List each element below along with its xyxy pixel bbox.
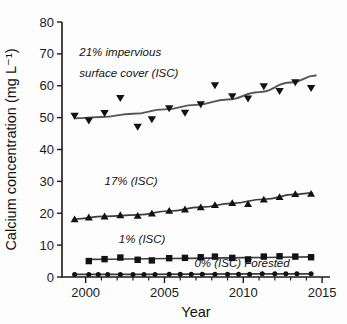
data-point-circle: [167, 272, 172, 277]
y-ticklabel: 40: [40, 142, 54, 157]
data-point-circle: [236, 272, 241, 277]
data-point-circle: [153, 272, 158, 277]
y-ticklabel: 30: [40, 174, 54, 189]
data-point-triangle-down: [148, 116, 156, 123]
annot-21-isc-line2: surface cover (ISC): [79, 67, 178, 79]
data-point-circle: [283, 271, 288, 276]
y-ticklabel: 60: [40, 78, 54, 93]
data-point-square: [134, 257, 140, 263]
figure-container: 010203040506070802000200520102015YearCal…: [0, 0, 347, 324]
data-point-circle: [309, 271, 314, 276]
data-point-square: [166, 255, 172, 261]
x-ticklabel: 2015: [308, 285, 337, 300]
data-point-square: [101, 256, 107, 262]
data-point-triangle-down: [244, 95, 252, 102]
data-point-triangle-down: [260, 83, 268, 90]
y-ticklabel: 70: [40, 46, 54, 61]
data-point-circle: [86, 272, 91, 277]
trend-line-1: [75, 193, 313, 219]
annot-21-isc-line1: 21% impervious: [78, 46, 161, 58]
data-point-circle: [272, 271, 277, 276]
data-point-square: [292, 253, 298, 259]
x-axis-title: Year: [181, 304, 210, 320]
annot-0-isc: 0% (ISC) Forested: [194, 257, 290, 269]
x-ticklabel: 2000: [71, 285, 100, 300]
data-point-triangle-down: [133, 124, 141, 131]
y-ticklabel: 10: [40, 238, 54, 253]
data-point-circle: [130, 272, 135, 277]
data-point-circle: [225, 272, 230, 277]
data-point-square: [86, 258, 92, 264]
data-point-circle: [200, 272, 205, 277]
data-point-circle: [189, 272, 194, 277]
data-point-circle: [105, 272, 110, 277]
data-point-square: [149, 257, 155, 263]
x-ticklabel: 2005: [150, 285, 179, 300]
data-point-square: [182, 255, 188, 261]
data-point-circle: [260, 271, 265, 276]
data-point-circle: [96, 272, 101, 277]
annot-1-isc: 1% (ISC): [119, 233, 166, 245]
y-ticklabel: 0: [47, 270, 54, 285]
y-ticklabel: 80: [40, 15, 54, 30]
data-point-circle: [247, 272, 252, 277]
data-point-circle: [178, 272, 183, 277]
data-point-circle: [72, 272, 77, 277]
data-point-square: [308, 254, 314, 260]
y-axis-title: Calcium concentration (mg L⁻¹): [3, 48, 19, 250]
data-point-circle: [212, 272, 217, 277]
data-point-square: [117, 254, 123, 260]
data-point-triangle-down: [85, 117, 93, 124]
data-point-triangle-down: [116, 95, 124, 102]
y-ticklabel: 50: [40, 110, 54, 125]
data-point-triangle-down: [307, 85, 315, 92]
data-point-circle: [294, 271, 299, 276]
y-ticklabel: 20: [40, 206, 54, 221]
data-point-circle: [141, 272, 146, 277]
data-point-triangle-down: [275, 88, 283, 95]
data-point-triangle-down: [211, 82, 219, 89]
axis-lines: [62, 22, 330, 277]
x-ticklabel: 2010: [229, 285, 258, 300]
data-point-triangle-down: [181, 110, 189, 117]
trend-line-0: [75, 76, 316, 119]
data-point-circle: [118, 272, 123, 277]
annot-17-isc: 17% (ISC): [105, 175, 158, 187]
calcium-concentration-chart: 010203040506070802000200520102015YearCal…: [0, 0, 347, 324]
